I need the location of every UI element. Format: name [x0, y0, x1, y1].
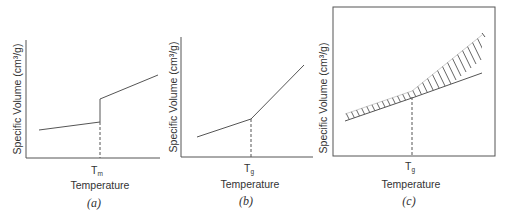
x-axis-label: Temperature [382, 178, 441, 190]
y-axis-label: Specific Volume (cm³/g) [317, 43, 329, 154]
hatched-band [342, 11, 496, 125]
volume-curve [39, 75, 158, 130]
figure-canvas: Specific Volume (cm³/g) Tm Temperature (… [0, 0, 507, 223]
band-upper-edge [345, 35, 482, 114]
plot-frame [333, 7, 495, 156]
panel-caption: (c) [402, 194, 415, 208]
tick-label-tg: Tg [405, 160, 415, 174]
y-axis-label: Specific Volume (cm³/g) [11, 44, 23, 155]
panel-c: Specific Volume (cm³/g) Tg Temperature (… [317, 7, 496, 208]
x-axis-label: Temperature [221, 178, 280, 190]
y-axis-label: Specific Volume (cm³/g) [167, 42, 179, 153]
band-lower-edge [345, 73, 482, 121]
panel-caption: (a) [87, 196, 101, 210]
band-right-cap [482, 33, 485, 37]
tick-label-tm: Tm [91, 164, 103, 177]
panel-b: Specific Volume (cm³/g) Tg Temperature (… [167, 37, 313, 208]
panel-a: Specific Volume (cm³/g) Tm Temperature (… [11, 40, 160, 210]
panel-caption: (b) [239, 194, 253, 208]
x-axis-label: Temperature [71, 179, 130, 191]
tick-label-tg: Tg [244, 162, 254, 176]
